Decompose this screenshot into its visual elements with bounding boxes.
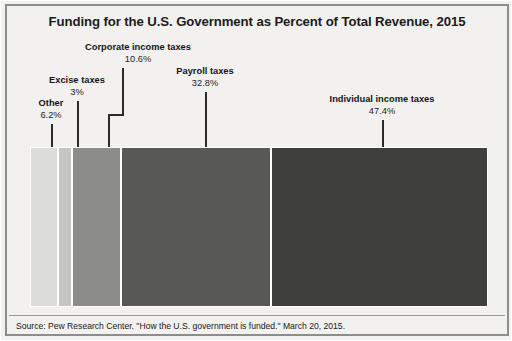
callout-payroll: Payroll taxes 32.8% [110, 66, 300, 89]
callout-individual-value: 47.4% [287, 106, 477, 118]
leader-line-excise [77, 101, 79, 147]
bar-segment-individual[interactable] [271, 147, 488, 307]
leader-line-payroll [205, 92, 207, 147]
leader-line-corporate-lower [108, 114, 110, 147]
callout-corporate: Corporate income taxes 10.6% [52, 42, 224, 65]
chart-inner: Funding for the U.S. Government as Perce… [7, 6, 507, 334]
callout-other: Other 6.2% [3, 98, 99, 121]
callout-corporate-name: Corporate income taxes [52, 42, 224, 54]
bar-segment-excise[interactable] [58, 147, 72, 307]
callout-other-name: Other [3, 98, 99, 110]
callout-payroll-value: 32.8% [110, 78, 300, 90]
page-title: Funding for the U.S. Government as Perce… [7, 14, 507, 29]
leader-line-corporate-elbow [108, 114, 124, 116]
leader-line-other [51, 124, 53, 147]
bar-segment-other[interactable] [30, 147, 58, 307]
callout-payroll-name: Payroll taxes [110, 66, 300, 78]
footer-divider [9, 315, 505, 316]
bar-segment-payroll[interactable] [121, 147, 271, 307]
callout-individual-name: Individual income taxes [287, 94, 477, 106]
callout-individual: Individual income taxes 47.4% [287, 94, 477, 117]
stacked-bar [30, 147, 488, 307]
callout-corporate-value: 10.6% [52, 54, 224, 66]
source-note: Source: Pew Research Center. "How the U.… [16, 321, 345, 331]
bar-segment-corporate[interactable] [72, 147, 121, 307]
chart-frame: Funding for the U.S. Government as Perce… [5, 4, 509, 336]
chart-figure: Funding for the U.S. Government as Perce… [0, 0, 512, 341]
leader-line-individual [382, 120, 384, 147]
callout-other-value: 6.2% [3, 110, 99, 122]
